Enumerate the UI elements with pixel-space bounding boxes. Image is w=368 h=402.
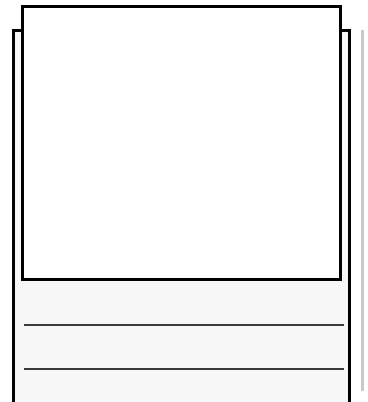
writing-line-2[interactable] bbox=[24, 368, 344, 370]
writing-area bbox=[15, 281, 348, 391]
drawing-box[interactable] bbox=[21, 5, 342, 281]
page-edge-shadow bbox=[361, 30, 364, 391]
writing-line-1[interactable] bbox=[24, 324, 344, 326]
